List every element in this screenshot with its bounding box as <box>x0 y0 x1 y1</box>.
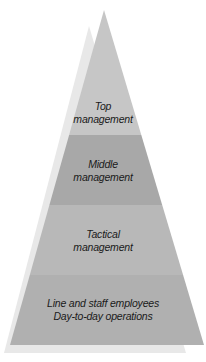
level-tactical-line2: management <box>0 241 206 254</box>
level-middle-line2: management <box>0 171 206 184</box>
level-line-staff-line2: Day-to-day operations <box>0 310 206 323</box>
level-line-staff-label: Line and staff employees Day-to-day oper… <box>0 297 206 323</box>
level-top-label: Top management <box>0 100 206 126</box>
level-tactical-label: Tactical management <box>0 228 206 254</box>
level-middle-line1: Middle <box>0 158 206 171</box>
level-tactical-line1: Tactical <box>0 228 206 241</box>
level-middle-label: Middle management <box>0 158 206 184</box>
level-top-line2: management <box>0 113 206 126</box>
level-top-line1: Top <box>0 100 206 113</box>
level-line-staff-line1: Line and staff employees <box>0 297 206 310</box>
